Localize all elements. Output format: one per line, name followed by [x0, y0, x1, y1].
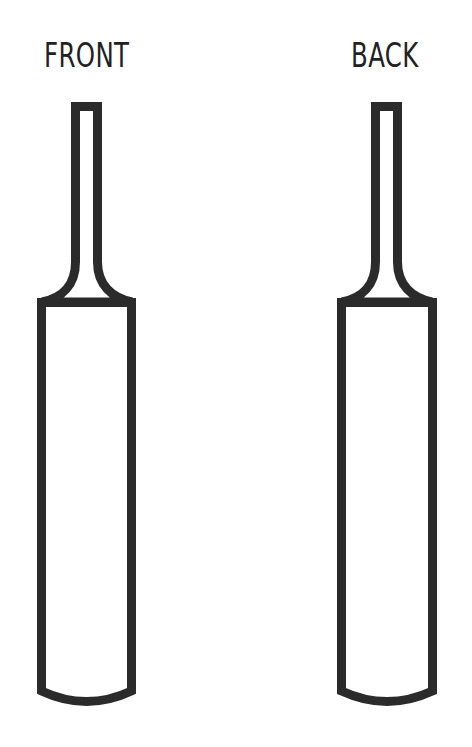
bat-outlines: [0, 0, 472, 747]
back-bat-outline: [342, 107, 433, 702]
front-bat-outline: [42, 107, 133, 702]
back-bat-handle: [342, 107, 432, 303]
front-bat-blade: [42, 303, 132, 702]
back-bat-blade: [342, 303, 433, 702]
front-bat-handle: [42, 107, 132, 303]
